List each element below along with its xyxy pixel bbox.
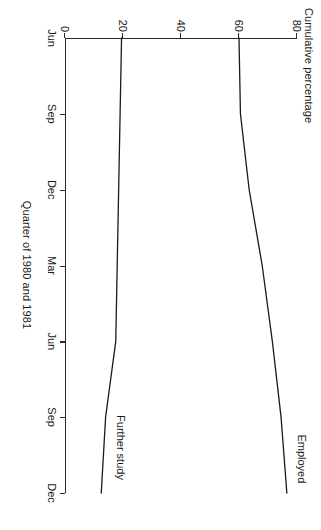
y-tick-label: 80 xyxy=(291,20,303,32)
series-lines xyxy=(65,38,297,493)
x-tick-label: Mar xyxy=(46,256,58,275)
y-axis-title: Cumulative percentage xyxy=(303,8,315,123)
x-tick-label: Sep xyxy=(46,104,58,124)
rotated-figure-wrapper: Cumulative percentage Quarter of 1980 an… xyxy=(0,0,321,530)
line-chart-figure: Cumulative percentage Quarter of 1980 an… xyxy=(0,0,321,530)
x-tick-label: Sep xyxy=(46,407,58,427)
series-label-employed: Employed xyxy=(296,434,308,483)
x-tick-label: Dec xyxy=(46,180,58,200)
y-tick-label: 60 xyxy=(233,20,245,32)
x-axis-title: Quarter of 1980 and 1981 xyxy=(21,201,33,329)
series-line-employed xyxy=(239,38,287,493)
y-tick-label: 40 xyxy=(175,20,187,32)
plot-area: 020406080 JunSepDecMarJunSepDec Employed… xyxy=(65,38,297,493)
x-tick-label: Jun xyxy=(46,29,58,47)
x-tick-label: Dec xyxy=(46,483,58,503)
y-tick-label: 20 xyxy=(117,20,129,32)
y-tick-label: 0 xyxy=(59,26,71,32)
x-tick-label: Jun xyxy=(46,332,58,350)
series-label-further-study: Further study xyxy=(115,415,127,480)
x-tick-mark xyxy=(60,493,65,494)
